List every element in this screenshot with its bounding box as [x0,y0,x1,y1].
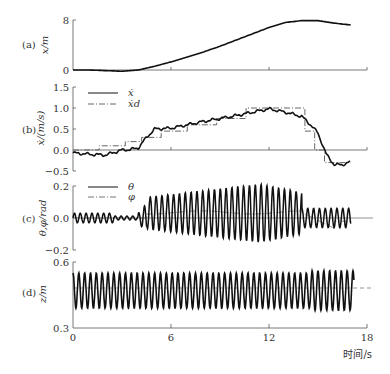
series-xdot-line [73,108,350,166]
panel-d: (d) z/m 0.6 0.3 0 6 12 18 时间/s [22,257,373,360]
x-axis-label: 时间/s [343,348,372,360]
legend-xdot: ẋ [128,87,134,98]
panel-c-ylabel: θ,φ/rad [37,200,48,237]
panel-a-label: (a) [22,39,36,50]
panel-b-ytick-0.5: 0.5 [53,124,69,135]
panel-a-ytick-8: 8 [63,15,69,26]
xtick-6: 6 [168,332,174,343]
panel-b-ytick-1.0: 1.0 [53,103,69,114]
panel-c: (c) θ,φ/rad 0.2 0.0 −0.2 θ φ [22,181,373,256]
legend-b: ẋ ẋd [88,87,140,109]
xtick-0: 0 [70,332,76,343]
panel-b-ytick-1.5: 1.5 [53,82,69,93]
panel-b-ylabel: ẋ/(m/s) [35,111,46,146]
panel-c-ytick-0.0: 0.0 [53,213,69,224]
panel-d-ytick-0.3: 0.3 [53,323,69,334]
legend-c: θ φ [88,181,135,202]
panel-c-ytick-0.2: 0.2 [53,181,69,192]
panel-d-ytick-0.6: 0.6 [53,257,69,268]
panel-c-label: (c) [22,213,36,224]
legend-phi: φ [128,191,135,202]
panel-c-ytick-neg0.2: −0.2 [45,245,69,256]
series-theta-line [73,185,351,243]
panel-b: (b) ẋ/(m/s) 1.5 1.0 0.5 0.0 −0.5 ẋ ẋd [22,82,367,177]
panel-d-label: (d) [22,287,36,298]
panel-b-ytick-0.0: 0.0 [53,145,69,156]
series-z-line [73,271,354,311]
series-x-line [73,21,351,72]
panel-a: (a) x/m 8 0 [22,15,367,76]
panel-d-ylabel: z/m [37,285,48,304]
panel-b-ytick-neg0.5: −0.5 [45,166,69,177]
series-xd-line [73,108,351,163]
xtick-12: 12 [263,332,276,343]
legend-xd: ẋd [128,98,140,109]
panel-a-ylabel: x/m [39,36,50,55]
panel-a-ytick-0: 0 [63,65,69,76]
xtick-18: 18 [361,332,374,343]
multi-panel-time-series-chart: (a) x/m 8 0 (b) ẋ/(m/s) 1.5 1.0 0.5 0.0 … [0,0,390,374]
